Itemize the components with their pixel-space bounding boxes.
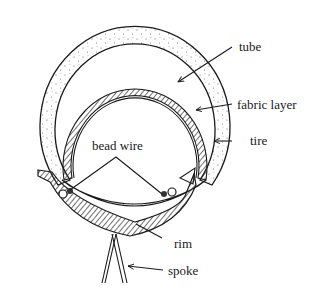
label-tube: tube [239, 40, 261, 53]
spoke [102, 234, 127, 283]
bead-wire-leader [70, 157, 162, 194]
label-spoke: spoke [168, 264, 198, 277]
label-tire: tire [250, 134, 267, 147]
label-fabric-layer: fabric layer [237, 98, 297, 111]
fabric-layer-ring [63, 89, 207, 180]
label-bead-wire: bead wire [92, 139, 143, 152]
bead-wire-right [161, 188, 176, 197]
label-rim: rim [174, 237, 192, 250]
spoke-leader [128, 266, 163, 270]
